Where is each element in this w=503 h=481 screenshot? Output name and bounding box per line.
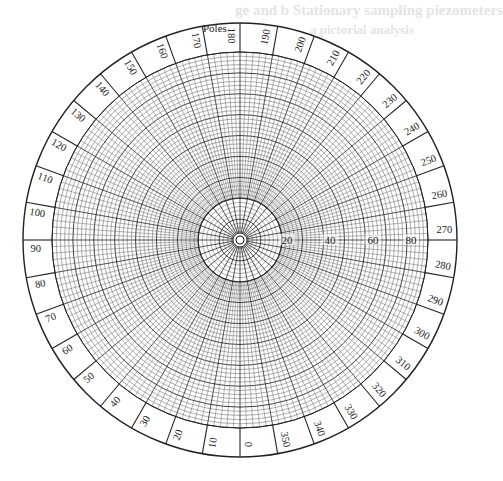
azimuth-label-260: 260: [431, 188, 448, 202]
azimuth-label-320: 320: [370, 380, 389, 399]
grid-radial-line: [273, 124, 388, 214]
grid-radial-line: [233, 52, 238, 198]
grid-radial-line: [266, 92, 356, 207]
grid-radial-line: [53, 244, 198, 259]
grid-radial-line: [158, 71, 222, 202]
azimuth-label-230: 230: [380, 91, 399, 110]
grid-radial-line: [241, 282, 246, 428]
azimuth-label-310: 310: [394, 354, 413, 373]
radial-label-60: 60: [368, 234, 380, 246]
azimuth-tick: [273, 425, 278, 454]
azimuth-label-220: 220: [354, 67, 373, 86]
azimuth-label-70: 70: [44, 311, 58, 325]
azimuth-label-350: 350: [279, 431, 293, 448]
grid-radial-line: [220, 282, 235, 427]
grid-radial-line: [71, 158, 202, 222]
azimuth-tick: [304, 417, 314, 444]
azimuth-tick: [425, 273, 454, 278]
azimuth-label-270: 270: [436, 224, 452, 235]
azimuth-label-280: 280: [434, 258, 451, 272]
azimuth-label-200: 200: [292, 35, 308, 54]
azimuth-label-100: 100: [29, 206, 46, 220]
azimuth-label-170: 170: [190, 32, 204, 49]
radial-label-20: 20: [282, 234, 294, 246]
grid-radial-line: [244, 53, 259, 198]
grid-radial-line: [92, 266, 207, 356]
grid-radial-line: [241, 52, 246, 198]
azimuth-label-190: 190: [258, 28, 272, 45]
azimuth-label-250: 250: [419, 153, 438, 169]
azimuth-label-90: 90: [30, 243, 41, 254]
azimuth-label-180: 180: [226, 28, 237, 44]
grid-radial-line: [233, 282, 238, 428]
grid-radial-line: [124, 92, 214, 207]
grid-radial-line: [278, 258, 409, 322]
poles-label: Poles: [203, 22, 227, 34]
grid-radial-line: [278, 158, 409, 222]
azimuth-label-50: 50: [81, 370, 96, 385]
grid-radial-line: [258, 278, 322, 409]
grid-radial-line: [266, 273, 356, 388]
grid-radial-line: [71, 258, 202, 322]
azimuth-tick: [273, 26, 278, 55]
azimuth-label-330: 330: [342, 402, 359, 421]
center-hole: [236, 236, 244, 244]
azimuth-tick: [417, 166, 444, 176]
grid-radial-line: [52, 233, 198, 238]
grid-radial-line: [282, 244, 427, 259]
grid-radial-line: [244, 282, 259, 427]
azimuth-label-20: 20: [171, 428, 185, 442]
azimuth-label-130: 130: [69, 106, 88, 125]
grid-radial-line: [92, 124, 207, 214]
azimuth-label-60: 60: [60, 342, 75, 357]
grid-radial-line: [52, 241, 198, 246]
azimuth-label-300: 300: [413, 324, 432, 341]
azimuth-label-0: 0: [243, 442, 254, 447]
azimuth-label-10: 10: [206, 436, 219, 448]
azimuth-label-290: 290: [426, 292, 445, 308]
grid-radial-line: [53, 220, 198, 235]
azimuth-label-40: 40: [107, 394, 122, 409]
azimuth-label-210: 210: [324, 48, 341, 67]
grid-radial-line: [220, 53, 235, 198]
grid-radial-line: [124, 273, 214, 388]
grid-radial-line: [273, 266, 388, 356]
azimuth-tick: [425, 202, 454, 207]
grid-radial-line: [258, 71, 322, 202]
azimuth-label-110: 110: [36, 170, 54, 186]
azimuth-label-340: 340: [312, 419, 328, 438]
azimuth-label-240: 240: [402, 120, 421, 137]
radial-label-80: 80: [406, 234, 418, 246]
azimuth-label-160: 160: [155, 42, 171, 61]
radial-label-40: 40: [325, 234, 337, 246]
azimuth-label-80: 80: [34, 277, 46, 290]
grid-radial-line: [158, 278, 222, 409]
azimuth-label-140: 140: [93, 79, 112, 98]
azimuth-label-30: 30: [138, 414, 153, 429]
